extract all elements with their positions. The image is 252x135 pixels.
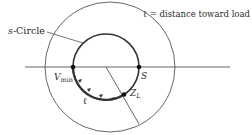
s-point-label: S [141,71,147,81]
ell-label: ℓ [83,96,87,106]
s-circle-diagram: s-Circle ℓ = distance toward load Vmin S… [0,0,252,135]
s-circle-label: s-Circle [8,25,45,36]
legend-text: ℓ = distance toward load [143,9,251,19]
ell-arc [73,67,124,100]
zl-point [122,92,127,97]
vmin-point [71,65,76,70]
vmin-label: Vmin [54,72,73,84]
zl-label: ZL [129,88,141,100]
s-point [137,65,142,70]
